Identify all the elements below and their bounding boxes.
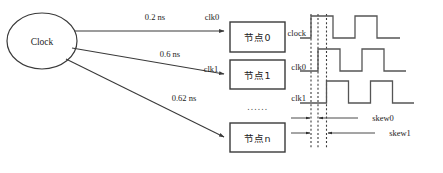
signal-label-clk1: clk1 [291,93,306,103]
node-box-0-label: 节点0 [244,32,270,43]
clock-source: Clock [7,13,77,69]
delay-arrow-node1 [72,48,224,74]
clock-skew-figure: Clock 0.2 ns 0.6 ns 0.62 ns clk0 clk1 节点… [0,0,443,173]
signal-label-clock: clock [288,28,307,38]
delay-label-1: 0.6 ns [160,49,180,59]
node-box-1: 节点1 [230,60,285,89]
waveform-clk0-path [300,49,406,71]
measurement-skew0: skew0 [291,113,394,123]
delay-label-0: 0.2 ns [145,12,165,22]
arrow-line-node1 [72,48,224,74]
net-label-clk0: clk0 [205,12,220,22]
arrow-line-noden [66,59,224,137]
waveform-clk1-path [300,81,414,103]
node-box-0: 节点0 [230,22,285,52]
delay-arrow-noden [66,59,224,137]
waveform-clk1 [300,81,414,103]
node-box-n: 节点n [230,123,285,152]
waveform-clock-path [300,16,400,38]
clock-source-label: Clock [31,37,54,47]
waveform-clock [300,16,400,38]
measurement-skew1: skew1 [291,128,411,138]
diagram-canvas: Clock 0.2 ns 0.6 ns 0.62 ns clk0 clk1 节点… [0,0,443,173]
node-box-n-label: 节点n [244,133,270,144]
node-ellipsis: ...... [247,102,268,112]
waveform-clk0 [300,49,406,71]
net-label-clk1: clk1 [204,64,219,74]
node-box-1-label: 节点1 [244,70,270,81]
skew0-label: skew0 [372,113,394,123]
skew1-label: skew1 [389,128,411,138]
delay-label-n: 0.62 ns [172,93,197,103]
